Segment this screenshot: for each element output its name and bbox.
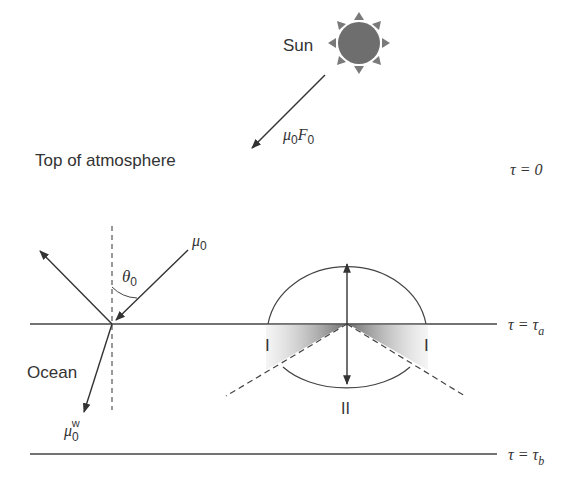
sun-icon [328,12,390,74]
radiative-transfer-diagram: Sun μ0F0 Top of atmosphere τ = 0 τ = τa … [0,0,585,484]
tau-a-label: τ = τa [508,316,544,338]
region-I-left-shade [266,324,346,370]
region-II-label: II [341,400,350,417]
incident-flux-label: μ0F0 [282,126,315,147]
top-of-atmosphere-label: Top of atmosphere [35,151,176,170]
region-I-right-label: I [424,336,429,355]
mu0w-label: μ0w [63,417,80,444]
ocean-label: Ocean [27,363,77,382]
refracted-ray [84,324,112,412]
reflected-ray [40,251,112,324]
radiance-distribution: I I II [226,264,465,417]
theta0-label: θ0 [122,267,137,289]
tau-b-label: τ = τb [508,446,544,468]
sun-label: Sun [283,36,313,55]
region-I-left-label: I [265,336,270,355]
region-I-right-shade [348,324,428,370]
mu0-label: μ0 [191,232,207,253]
tau-zero-label: τ = 0 [510,161,543,178]
